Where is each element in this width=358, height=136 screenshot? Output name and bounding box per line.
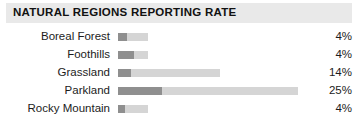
bar-light-segment	[125, 105, 148, 113]
page-title: NATURAL REGIONS REPORTING RATE	[6, 7, 236, 19]
value-bar	[118, 87, 298, 95]
value-bar	[118, 105, 148, 113]
region-label: Rocky Mountain	[0, 103, 118, 115]
region-label: Grassland	[0, 67, 118, 79]
bar-dark-segment	[118, 33, 127, 41]
bar-dark-segment	[118, 69, 131, 77]
reporting-rate-row-list: Boreal Forest 4% Foothills 4% Grassland	[0, 28, 358, 118]
region-value: 4%	[303, 103, 358, 115]
bar-dark-segment	[118, 105, 125, 113]
region-value: 14%	[303, 67, 358, 79]
table-row: Rocky Mountain 4%	[0, 100, 358, 118]
value-bar	[118, 51, 148, 59]
region-value: 25%	[303, 85, 358, 97]
bar-light-segment	[134, 51, 148, 59]
region-label: Parkland	[0, 85, 118, 97]
bar-cell	[118, 46, 303, 64]
region-value: 4%	[303, 49, 358, 61]
bar-dark-segment	[118, 51, 134, 59]
bar-light-segment	[131, 69, 220, 77]
bar-dark-segment	[118, 87, 162, 95]
bar-cell	[118, 100, 303, 118]
panel-header: NATURAL REGIONS REPORTING RATE	[6, 3, 352, 23]
value-bar	[118, 69, 220, 77]
bar-light-segment	[127, 33, 148, 41]
table-row: Boreal Forest 4%	[0, 28, 358, 46]
region-value: 4%	[303, 31, 358, 43]
region-label: Boreal Forest	[0, 31, 118, 43]
natural-regions-reporting-rate-panel: NATURAL REGIONS REPORTING RATE Boreal Fo…	[0, 0, 358, 136]
bar-cell	[118, 64, 303, 82]
value-bar	[118, 33, 148, 41]
bar-cell	[118, 28, 303, 46]
bar-light-segment	[162, 87, 298, 95]
table-row: Foothills 4%	[0, 46, 358, 64]
region-label: Foothills	[0, 49, 118, 61]
bar-cell	[118, 82, 303, 100]
table-row: Grassland 14%	[0, 64, 358, 82]
table-row: Parkland 25%	[0, 82, 358, 100]
